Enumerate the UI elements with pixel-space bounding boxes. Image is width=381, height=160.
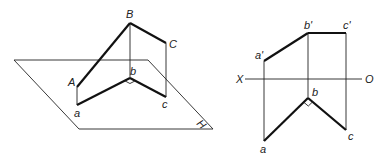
diagram-canvas: HABCabc XOa'b'c'abc [0,0,381,160]
pictorial-label-b: b [130,65,136,77]
ortho-label-b: b [312,86,318,98]
pictorial-label-a: a [74,107,80,119]
pictorial-edge-a-b [77,78,130,105]
axis-label-o: O [365,73,374,85]
pictorial-edge-A-B [77,23,130,87]
orthographic-view: XOa'b'c'abc [235,19,374,155]
pictorial-label-A: A [67,76,75,88]
ortho-label-b_prime: b' [304,19,313,31]
ortho-label-c_prime: c' [343,19,352,31]
pictorial-right-angle-marker [125,81,136,84]
pictorial-label-C: C [169,38,177,50]
projection-diagram: HABCabc XOa'b'c'abc [0,0,381,160]
axis-label-x: X [235,73,244,85]
pictorial-edge-b-c [130,78,166,97]
pictorial-label-B: B [126,8,133,20]
pictorial-edge-B-C [130,23,166,43]
pictorial-view: HABCabc [14,8,213,131]
ortho-edge-b-c [308,98,346,130]
ortho-right-angle-marker [304,102,313,106]
pictorial-label-c: c [162,98,168,110]
ortho-edge-a-b [264,98,308,141]
ortho-label-a: a [260,143,266,155]
ortho-edge-a_prime-b_prime [264,33,308,61]
ortho-label-c: c [348,130,354,142]
ortho-label-a_prime: a' [255,49,264,61]
horizontal-plane-h [14,60,213,129]
